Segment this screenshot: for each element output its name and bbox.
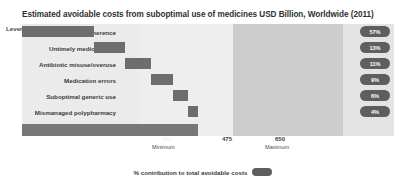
- bar-total-avoidable-costs: [22, 124, 198, 136]
- axis-label-minimum: Minimum: [152, 144, 175, 150]
- percent-badge-untimely-medicine: 13%: [360, 42, 390, 53]
- axis-value-minimum: 301: [162, 136, 172, 142]
- legend: % contribution to total avoidable costs: [0, 168, 406, 176]
- percent-badge-polypharmacy: 4%: [360, 106, 390, 117]
- percent-badge-antibiotic-misuse: 11%: [360, 58, 390, 69]
- axis-value-mid: 475: [222, 136, 232, 142]
- plot-area: Levers Nonadherence Untimely medicine us…: [22, 24, 394, 158]
- axis-value-maximum: 650: [275, 136, 285, 142]
- value-axis: 301 475 650 Minimum Maximum: [22, 136, 394, 158]
- category-label-antibiotic-misuse: Antibiotic misuse/overuse: [39, 61, 116, 68]
- percent-badge-generic-use: 6%: [360, 90, 390, 101]
- bar-polypharmacy: [188, 106, 198, 117]
- page-title: Estimated avoidable costs from suboptima…: [22, 10, 394, 19]
- legend-swatch-icon: [252, 168, 272, 176]
- axis-label-maximum: Maximum: [265, 144, 289, 150]
- bar-antibiotic-misuse: [125, 58, 151, 69]
- bar-untimely-medicine: [94, 42, 125, 53]
- category-label-medication-errors: Medication errors: [64, 77, 116, 84]
- category-label-polypharmacy: Mismanaged polypharmacy: [35, 109, 116, 116]
- chart-screenshot: Estimated avoidable costs from suboptima…: [0, 0, 406, 194]
- percent-badge-nonadherence: 57%: [360, 26, 390, 37]
- bar-medication-errors: [151, 74, 173, 85]
- category-label-generic-use: Suboptimal generic use: [46, 93, 116, 100]
- percent-badge-medication-errors: 9%: [360, 74, 390, 85]
- bar-generic-use: [173, 90, 188, 101]
- background-band-mid-dark: [233, 24, 343, 136]
- bar-nonadherence: [22, 26, 94, 37]
- legend-label: % contribution to total avoidable costs: [134, 169, 248, 176]
